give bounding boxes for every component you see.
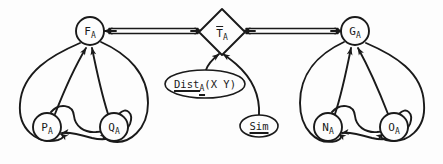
node-pa-label-base: P [41,121,48,134]
node-na-label-base: N [322,121,329,134]
node-qa-label: QA [108,118,120,136]
node-oa-label-base: O [388,121,395,134]
node-ga-label-sub: A [356,31,361,40]
node-dist-label: DistA(X Y) [174,75,236,93]
node-dist-label-args: (X Y) [204,78,236,90]
node-fa-label: FA [84,22,96,40]
node-qa-label-base: Q [108,121,115,134]
node-ta-label: TA [216,24,228,42]
node-sim-label-base: Sim [250,121,269,132]
node-ta-label-sub: A [223,33,228,42]
node-pa-label-sub: A [48,127,53,136]
node-ga-label-base: G [349,25,356,38]
node-fa-label-base: F [84,25,91,38]
node-pa-label: PA [41,118,53,136]
node-fa-label-sub: A [91,31,96,40]
node-qa-label-sub: A [115,127,120,136]
node-ta-label-base: T [216,28,223,39]
node-dist-label-sub: A [200,85,205,93]
node-oa-label-sub: A [395,127,400,136]
node-na-label-sub: A [329,127,334,136]
node-ga-label: GA [349,22,361,40]
node-sim-label: Sim [250,117,269,133]
node-oa-label: OA [388,118,400,136]
diagram-canvas: FA PA QA TA DistA(X Y) Sim GA NA OA [0,0,443,164]
node-dist-label-base: Dist [174,79,199,90]
node-na-label: NA [322,118,334,136]
